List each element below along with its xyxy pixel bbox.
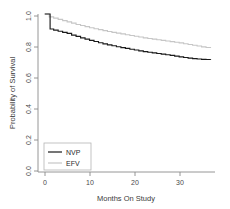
y-axis-ticks [34,16,38,171]
x-axis-tick-labels: 0 10 20 30 [43,179,184,186]
x-tick-label: 10 [86,179,94,186]
survival-chart-figure: 1.0 0.8 0.6 0.4 0.2 0.0 0 10 20 30 Month… [0,0,230,209]
x-tick-label: 20 [131,179,139,186]
x-tick-label: 0 [43,179,47,186]
x-axis-title: Months On Study [97,194,155,203]
kaplan-meier-plot: 1.0 0.8 0.6 0.4 0.2 0.0 0 10 20 30 Month… [0,0,230,209]
x-tick-label: 30 [176,179,184,186]
x-axis-ticks [45,172,180,176]
chart-legend: NVP EFV [44,143,91,170]
y-tick-label: 0.0 [25,166,32,176]
y-tick-label: 0.6 [25,73,32,83]
y-tick-label: 1.0 [25,11,32,21]
y-tick-label: 0.4 [25,104,32,114]
legend-label-nvp: NVP [66,149,81,156]
y-tick-label: 0.2 [25,135,32,145]
legend-label-efv: EFV [66,160,80,167]
y-axis-title: Probability of Survival [8,57,17,129]
y-tick-label: 0.8 [25,42,32,52]
y-axis-tick-labels: 1.0 0.8 0.6 0.4 0.2 0.0 [25,11,32,176]
